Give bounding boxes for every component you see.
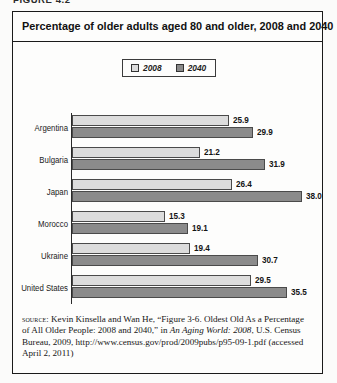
source-italic-title: An Aging World: 2008 [170,325,252,335]
category-label: Japan [0,187,68,197]
bar-fill-2040 [72,287,287,298]
bar-group: Argentina 25.9 29.9 [13,113,324,145]
bar-fill-2008 [72,147,200,158]
category-label: United States [0,283,68,293]
bar-group: Morocco 15.3 19.1 [13,209,324,241]
bar-value-2008: 21.2 [204,147,220,158]
chart-title: Percentage of older adults aged 80 and o… [22,20,303,33]
legend-item-2008: 2008 [131,63,162,73]
bar-value-2040: 30.7 [262,255,278,266]
bar-value-2008: 19.4 [194,243,210,254]
bar-fill-2040 [72,127,253,138]
category-label: Ukraine [0,251,68,261]
bar-fill-2008 [72,179,232,190]
bar-value-2008: 15.3 [169,211,185,222]
legend-swatch-2040 [176,64,184,72]
bar-fill-2040 [72,223,188,234]
bar-fill-2040 [72,159,265,170]
figure-caption: FIGURE 4.2 [13,0,71,5]
bar-fill-2008 [72,211,165,222]
bar-fill-2040 [72,191,302,202]
source-note: source: Kevin Kinsella and Wan He, “Figu… [22,314,312,360]
legend-swatch-2008 [131,64,139,72]
bar-group: United States 29.5 35.5 [13,273,324,305]
category-label: Morocco [0,219,68,229]
bar-value-2008: 25.9 [233,115,249,126]
title-divider [13,41,322,42]
bar-group: Japan 26.4 38.0 [13,177,324,209]
legend-label-2040: 2040 [188,63,207,73]
chart-plot-area: Argentina 25.9 29.9 Bulgaria 21.2 31.9 J… [13,86,324,308]
bar-fill-2008 [72,115,229,126]
bar-value-2040: 35.5 [291,287,307,298]
bar-value-2008: 29.5 [255,275,271,286]
bar-value-2040: 38.0 [306,191,322,202]
bar-value-2008: 26.4 [236,179,252,190]
bar-fill-2040 [72,255,258,266]
category-label: Argentina [0,123,68,133]
bar-fill-2008 [72,243,190,254]
bar-group: Bulgaria 21.2 31.9 [13,145,324,177]
chart-legend: 2008 2040 [122,59,216,77]
figure-box: Percentage of older adults aged 80 and o… [12,11,323,374]
bar-value-2040: 19.1 [192,223,208,234]
category-label: Bulgaria [0,155,68,165]
legend-label-2008: 2008 [143,63,162,73]
source-label: source: [22,314,49,324]
legend-item-2040: 2040 [176,63,207,73]
bar-value-2040: 29.9 [257,127,273,138]
bar-value-2040: 31.9 [269,159,285,170]
bar-fill-2008 [72,275,251,286]
bar-group: Ukraine 19.4 30.7 [13,241,324,273]
